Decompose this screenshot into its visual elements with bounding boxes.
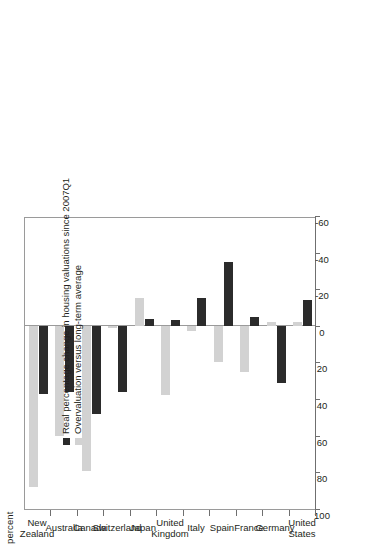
value-axis-tick-label: 60 [317, 437, 328, 448]
category-axis-tick [289, 510, 290, 516]
category-axis-tick [183, 510, 184, 516]
value-axis-tick-label: -40 [315, 254, 329, 265]
bar-overvaluation [108, 326, 117, 328]
bar-overvaluation [187, 326, 196, 331]
bar-real-change [39, 326, 48, 394]
value-axis-tick-label: 0 [319, 327, 324, 338]
category-axis-tick [262, 510, 263, 516]
category-axis-tick [236, 510, 237, 516]
legend-item-real-change: Real percentage change in housing valuat… [61, 178, 71, 445]
bar-real-change [224, 262, 233, 326]
legend-label-overvaluation: Overvaluation versus long-term average [73, 265, 83, 434]
bar-real-change [118, 326, 127, 392]
chart-figure: percent Real percentage change in housin… [0, 0, 368, 547]
value-axis-tick-label: 40 [317, 400, 328, 411]
bar-real-change [250, 317, 259, 326]
value-axis-tick-label: -60 [315, 217, 329, 228]
chart-stage: percent Real percentage change in housin… [0, 0, 368, 547]
category-axis-tick [103, 510, 104, 516]
bar-real-change [171, 320, 180, 325]
plot-area: Real percentage change in housing valuat… [24, 217, 315, 510]
legend-label-real-change: Real percentage change in housing valuat… [61, 178, 71, 434]
bar-real-change [197, 298, 206, 325]
bar-overvaluation [161, 326, 170, 396]
bar-real-change [92, 326, 101, 414]
bar-overvaluation [29, 326, 38, 487]
legend-swatch-light-icon [75, 438, 82, 445]
bar-overvaluation [214, 326, 223, 363]
legend-swatch-dark-icon [63, 438, 70, 445]
category-axis-tick [209, 510, 210, 516]
bar-overvaluation [135, 298, 144, 325]
value-axis-tick-label: 80 [317, 473, 328, 484]
bar-overvaluation [293, 322, 302, 326]
bar-real-change [303, 300, 312, 326]
value-axis-tick-label: -20 [315, 290, 329, 301]
value-axis: 100806040200-20-40-60 [315, 217, 316, 510]
category-label: NewZealand [2, 518, 72, 539]
legend-item-overvaluation: Overvaluation versus long-term average [73, 178, 83, 445]
category-axis-tick [77, 510, 78, 516]
category-axis-tick [130, 510, 131, 516]
bar-real-change [277, 326, 286, 383]
category-axis-tick [156, 510, 157, 516]
category-axis-tick [315, 510, 316, 516]
chart-legend: Real percentage change in housing valuat… [61, 178, 85, 445]
bar-overvaluation [267, 322, 276, 326]
bar-real-change [145, 319, 154, 326]
value-axis-tick-label: 20 [317, 364, 328, 375]
category-axis-tick [50, 510, 51, 516]
bar-overvaluation [240, 326, 249, 372]
